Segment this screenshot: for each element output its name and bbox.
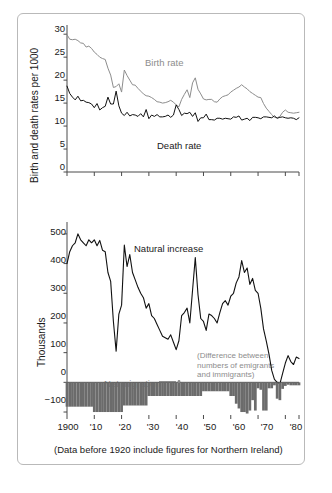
- top-chart-plot: [64, 25, 300, 176]
- figure-root: Birth and death rates per 1000 30 25 20 …: [0, 0, 332, 493]
- bottom-chart-plot: [64, 222, 301, 419]
- chart-canvas: [0, 0, 332, 493]
